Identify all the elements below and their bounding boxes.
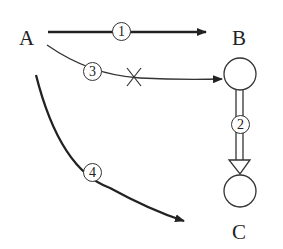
arrow-4-number: 4 [83,163,102,182]
node-a-label: A [19,28,34,49]
arrow-1-number: 1 [112,22,131,41]
arrow-3-curve [47,45,222,79]
node-c-circle [224,175,256,207]
node-c-label: C [232,222,246,243]
node-b-circle [224,58,256,90]
arrow-2-number: 2 [231,115,250,134]
node-b-label: B [232,28,246,49]
arrow-4-curve [36,75,184,221]
arrow-3-number: 3 [83,62,102,81]
